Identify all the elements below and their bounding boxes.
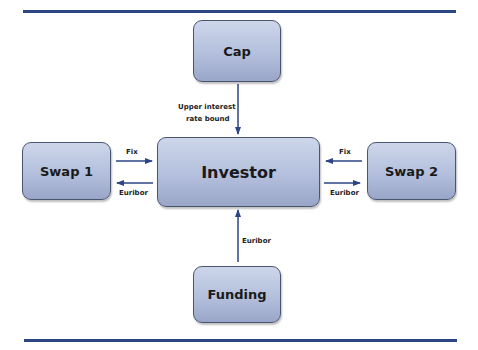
edge-label-funding-euribor: Euribor (242, 236, 271, 247)
edge-label-swap1-fix: Fix (126, 147, 138, 158)
edge-label-swap1-euribor: Euribor (119, 188, 148, 199)
node-funding: Funding (193, 266, 281, 323)
node-investor-label: Investor (201, 163, 276, 182)
edge-label-swap2-fix: Fix (339, 147, 351, 158)
edge-label-cap-line2: rate bound (186, 114, 230, 125)
edge-label-swap2-euribor: Euribor (330, 188, 359, 199)
node-cap-label: Cap (223, 44, 251, 59)
node-funding-label: Funding (207, 287, 266, 302)
node-swap1: Swap 1 (22, 142, 111, 200)
node-swap2-label: Swap 2 (385, 164, 438, 179)
node-cap: Cap (193, 20, 281, 82)
node-swap1-label: Swap 1 (40, 164, 93, 179)
node-swap2: Swap 2 (367, 142, 456, 200)
edge-label-cap-line1: Upper interest (178, 102, 236, 113)
node-investor: Investor (157, 137, 320, 207)
